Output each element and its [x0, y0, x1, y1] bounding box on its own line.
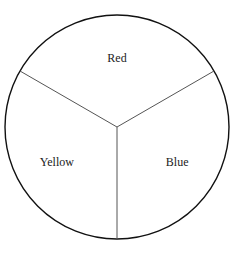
slice-divider: [20, 71, 117, 127]
slice-label-yellow: Yellow: [40, 155, 74, 169]
slice-label-blue: Blue: [166, 155, 189, 169]
slice-divider: [117, 71, 214, 127]
slice-label-red: Red: [107, 51, 126, 65]
pie-diagram: RedBlueYellow: [0, 0, 237, 253]
